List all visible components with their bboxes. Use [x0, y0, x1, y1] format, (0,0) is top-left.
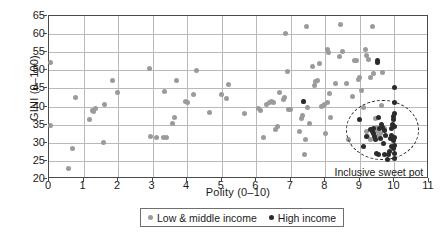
data-point — [90, 108, 95, 113]
grid-line-vertical — [360, 16, 361, 177]
data-point — [275, 124, 280, 129]
data-point — [361, 144, 366, 149]
data-point — [300, 113, 305, 118]
data-point — [357, 75, 362, 80]
data-point — [48, 60, 53, 65]
y-tick-mark — [43, 160, 47, 161]
data-point — [328, 115, 333, 120]
data-point — [338, 22, 343, 27]
data-point — [392, 85, 397, 90]
data-point — [392, 124, 397, 129]
data-point — [327, 91, 332, 96]
data-point — [174, 78, 179, 83]
grid-line-vertical — [153, 16, 154, 177]
data-point — [375, 60, 380, 65]
x-tick-mark — [48, 178, 49, 182]
data-point — [389, 144, 394, 149]
x-tick-mark — [83, 178, 84, 182]
data-point — [271, 100, 276, 105]
data-point — [87, 117, 92, 122]
data-point — [385, 157, 390, 162]
data-point — [226, 82, 231, 87]
data-point — [283, 31, 288, 36]
y-tick-mark — [43, 124, 47, 125]
data-point — [333, 81, 338, 86]
data-point — [370, 24, 375, 29]
y-tick-label: 65 — [5, 10, 45, 21]
data-point — [359, 88, 364, 93]
y-tick-label: 60 — [5, 28, 45, 39]
data-point — [301, 99, 306, 104]
data-point — [354, 58, 359, 63]
data-point — [101, 140, 106, 145]
data-point — [66, 166, 71, 171]
y-tick-label: 55 — [5, 46, 45, 57]
data-point — [340, 49, 345, 54]
x-tick-mark — [324, 178, 325, 182]
data-point — [380, 70, 385, 75]
data-point — [185, 100, 190, 105]
y-tick-label: 40 — [5, 101, 45, 112]
data-point — [154, 135, 159, 140]
data-point — [282, 95, 287, 100]
grid-line-horizontal — [49, 88, 427, 89]
data-point — [164, 135, 169, 140]
scatter-chart-figure: GINI (0–100) Polity (0–10) 2025303540455… — [0, 0, 447, 237]
data-point — [379, 103, 384, 108]
data-point — [110, 78, 115, 83]
data-point — [242, 111, 247, 116]
data-point — [357, 117, 362, 122]
legend-item[interactable]: Low & middle income — [148, 212, 257, 224]
data-point — [392, 151, 397, 156]
data-point — [305, 105, 310, 110]
data-point — [376, 152, 381, 157]
data-point — [346, 137, 351, 142]
x-tick-mark — [152, 178, 153, 182]
data-point — [376, 115, 381, 120]
plot-area: Inclusive sweet pot — [48, 15, 428, 178]
data-point — [261, 135, 266, 140]
data-point — [48, 123, 53, 128]
data-point — [172, 115, 177, 120]
y-tick-mark — [43, 142, 47, 143]
data-point — [310, 64, 315, 69]
data-point — [315, 78, 320, 83]
x-tick-mark — [221, 178, 222, 182]
data-point — [162, 89, 167, 94]
grid-line-vertical — [325, 16, 326, 177]
data-point — [366, 57, 371, 62]
data-point — [344, 81, 349, 86]
y-tick-label: 50 — [5, 64, 45, 75]
legend-item-label: High income — [278, 212, 336, 224]
grid-line-horizontal — [49, 34, 427, 35]
data-point — [371, 71, 376, 76]
grid-line-horizontal — [49, 161, 427, 162]
data-point — [371, 126, 376, 131]
y-tick-mark — [43, 15, 47, 16]
chart-legend: Low & middle incomeHigh income — [140, 208, 344, 227]
y-tick-mark — [43, 87, 47, 88]
data-point — [297, 129, 302, 134]
legend-item[interactable]: High income — [269, 212, 336, 224]
x-tick-mark — [117, 178, 118, 182]
y-tick-mark — [43, 51, 47, 52]
data-point — [363, 47, 368, 52]
data-point — [70, 146, 75, 151]
data-point — [392, 135, 397, 140]
grid-line-horizontal — [49, 70, 427, 71]
data-point — [381, 141, 386, 146]
data-point — [368, 75, 373, 80]
grid-line-vertical — [256, 16, 257, 177]
x-tick-mark — [186, 178, 187, 182]
data-point — [258, 108, 263, 113]
grid-line-vertical — [187, 16, 188, 177]
data-point — [307, 121, 312, 126]
y-tick-mark — [43, 106, 47, 107]
y-tick-mark — [43, 69, 47, 70]
x-tick-mark — [255, 178, 256, 182]
data-point — [337, 54, 342, 59]
data-point — [285, 69, 290, 74]
y-tick-label: 35 — [5, 119, 45, 130]
grid-line-vertical — [84, 16, 85, 177]
data-point — [392, 111, 397, 116]
